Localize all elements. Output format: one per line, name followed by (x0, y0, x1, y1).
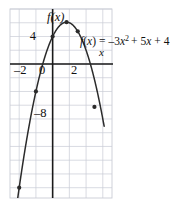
equation-exponent: 2 (125, 34, 129, 43)
function-name-label: f(x) (47, 10, 64, 24)
x-tick-label-2: 2 (71, 63, 77, 77)
x-axis-label-text: x (98, 46, 104, 58)
equation-b-sign: + 5 (131, 35, 146, 47)
x-tick-0-text: 0 (39, 63, 45, 77)
x-tick-minus2-text: –2 (13, 63, 27, 77)
parabola-figure: f(x) x 4 –8 –2 0 2 f(x)=–3x2+ 5x+ 4 (0, 0, 185, 205)
plot-area-background (10, 9, 112, 198)
equation-equals: = (99, 35, 106, 47)
x-axis-label: x (98, 46, 104, 58)
data-point-marker (51, 34, 55, 38)
data-point-marker (34, 89, 38, 93)
y-tick-4-text: 4 (30, 29, 37, 43)
equation-a-term: –3 (108, 35, 121, 47)
data-point-marker (64, 20, 68, 24)
function-name-text: f(x) (47, 10, 64, 24)
equation-c-term: + 4 (154, 35, 169, 47)
x-tick-label-0: 0 (39, 63, 45, 77)
y-tick-label-minus8: –8 (33, 106, 47, 120)
y-tick-label-4: 4 (30, 29, 37, 43)
y-tick-minus8-text: –8 (33, 106, 47, 120)
x-tick-2-text: 2 (71, 63, 77, 77)
data-point-marker (76, 29, 80, 33)
equation-label: f(x)=–3x2+ 5x+ 4 (80, 34, 170, 48)
equation-arg-close: ) (92, 35, 96, 48)
plot-background (10, 9, 112, 198)
data-point-marker (92, 105, 96, 109)
x-tick-label-minus2: –2 (13, 63, 27, 77)
parabola-plot: f(x) x 4 –8 –2 0 2 f(x)=–3x2+ 5x+ 4 (0, 0, 185, 205)
data-point-marker (17, 186, 21, 190)
equation-b-var: x (145, 35, 152, 47)
